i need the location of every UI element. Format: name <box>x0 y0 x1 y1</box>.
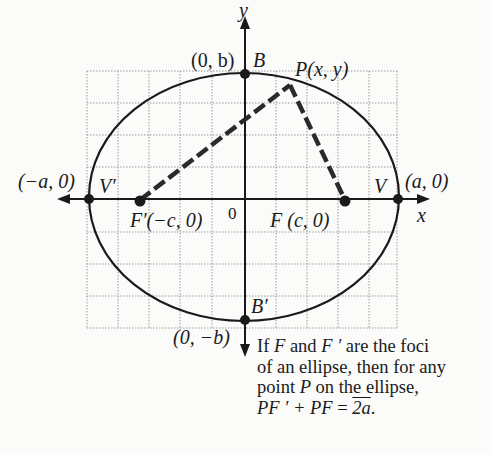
text: are the foci <box>341 336 429 356</box>
P-coords: (x, y) <box>307 58 348 80</box>
F-name: F <box>270 209 282 231</box>
label-V-coords: (a, 0) <box>405 171 448 191</box>
arrow-right-icon <box>417 194 430 204</box>
point-B <box>240 69 250 79</box>
symbol-F-prime: F ′ <box>321 336 341 356</box>
segment-PF <box>290 85 345 200</box>
caption-line-1: If F and F ′ are the foci <box>257 336 446 357</box>
F-coords: (c, 0) <box>287 209 329 231</box>
segment-PF-prime <box>140 85 290 200</box>
points <box>84 69 403 325</box>
text: on the ellipse, <box>311 377 419 397</box>
text: If <box>257 336 274 356</box>
F-prime-coords: (−c, 0) <box>147 209 203 231</box>
equation-lhs: PF ′ + PF <box>257 398 333 418</box>
text: point <box>257 377 300 397</box>
point-B-prime <box>240 315 250 325</box>
label-B: B <box>253 50 265 70</box>
point-F-prime <box>135 196 146 207</box>
caption: If F and F ′ are the foci of an ellipse,… <box>257 336 446 418</box>
P-name: P <box>295 58 307 80</box>
label-B-prime-coords: (0, −b) <box>173 327 230 347</box>
point-V-prime <box>84 194 94 204</box>
caption-line-3: point P on the ellipse, <box>257 377 446 398</box>
label-P: P(x, y) <box>295 59 348 79</box>
label-V-prime-coords: (−a, 0) <box>18 171 75 191</box>
label-F: F (c, 0) <box>270 210 329 230</box>
point-F <box>340 196 351 207</box>
arrow-down-icon <box>240 344 250 357</box>
x-axis-label: x <box>417 205 426 225</box>
ellipse-diagram: y x 0 (0, b) B P(x, y) (−a, 0) V′ V (a, … <box>0 0 492 455</box>
label-V-prime: V′ <box>99 176 116 196</box>
symbol-P: P <box>300 377 311 397</box>
label-B-prime: B′ <box>251 296 268 316</box>
symbol-F: F <box>274 336 285 356</box>
focal-radii <box>140 85 345 200</box>
label-V: V <box>374 176 386 196</box>
arrow-left-icon <box>57 194 70 204</box>
text: and <box>285 336 321 356</box>
label-F-prime: F′(−c, 0) <box>130 210 202 230</box>
origin-label: 0 <box>228 205 237 222</box>
coords-text: (0, b) <box>191 49 234 71</box>
caption-line-2: of an ellipse, then for any <box>257 357 446 378</box>
coords-text: (0, −b) <box>173 326 230 348</box>
y-axis-label: y <box>239 0 248 20</box>
label-B-coords: (0, b) <box>191 50 234 70</box>
equals-sign: = <box>333 398 353 418</box>
y-axis <box>240 16 250 357</box>
coords-text: (−a, 0) <box>18 170 75 192</box>
equation-rhs: 2a <box>352 398 371 418</box>
caption-line-4: PF ′ + PF = 2a. <box>257 398 446 419</box>
point-V <box>393 194 403 204</box>
period: . <box>371 398 376 418</box>
coords-text: (a, 0) <box>405 170 448 192</box>
F-prime-name: F′ <box>130 209 147 231</box>
